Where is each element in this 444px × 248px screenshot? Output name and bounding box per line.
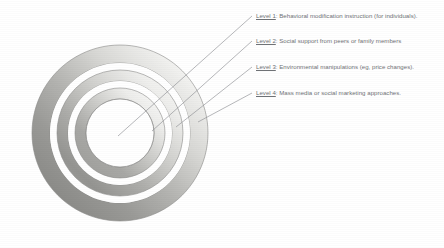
label-level-2-key: Level 2 (256, 37, 276, 44)
label-level-2-separator: : (276, 37, 278, 44)
label-level-4-separator: : (276, 89, 278, 96)
label-level-4: Level 4: Mass media or social marketing … (256, 89, 401, 97)
label-level-3-key: Level 3 (256, 63, 276, 70)
label-level-3-text: Environmental manipulations (eg, price c… (279, 63, 414, 70)
label-level-1: Level 1: Behavioral modification instruc… (256, 12, 418, 20)
label-level-4-key: Level 4 (256, 89, 276, 96)
label-level-3-separator: : (276, 63, 278, 70)
label-level-1-separator: : (276, 12, 278, 19)
label-level-1-key: Level 1 (256, 12, 276, 19)
label-level-2: Level 2: Social support from peers or fa… (256, 37, 401, 45)
label-level-2-text: Social support from peers or family memb… (279, 37, 401, 44)
label-level-4-text: Mass media or social marketing approache… (279, 89, 401, 96)
labels-layer: Level 1: Behavioral modification instruc… (0, 0, 444, 248)
label-level-1-text: Behavioral modification instruction (for… (279, 12, 417, 19)
figure-root: Level 1: Behavioral modification instruc… (0, 0, 444, 248)
label-level-3: Level 3: Environmental manipulations (eg… (256, 63, 414, 71)
